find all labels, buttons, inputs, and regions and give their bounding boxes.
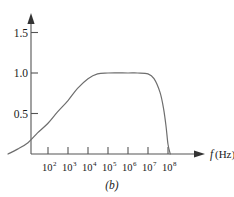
x-tick-exponent-5: 7	[153, 160, 157, 168]
x-tick-exponent-4: 6	[133, 160, 137, 168]
y-tick-marks	[31, 33, 38, 114]
x-tick-exponent-0: 2	[53, 160, 57, 168]
x-tick-exponent-6: 8	[173, 160, 177, 168]
x-tick-label-1e7: 10 7	[142, 160, 157, 173]
x-tick-label-1e4: 10 4	[82, 160, 97, 173]
x-tick-base-0: 10	[42, 162, 53, 173]
x-axis-title: f (Hz)	[210, 148, 234, 161]
x-tick-label-1e6: 10 6	[122, 160, 137, 173]
x-tick-label-1e8: 10 8	[162, 160, 177, 173]
x-axis-arrowhead	[194, 151, 205, 158]
x-tick-base-1: 10	[62, 162, 73, 173]
x-tick-exponent-3: 5	[113, 160, 117, 168]
x-tick-label-1e2: 10 2	[42, 160, 57, 173]
y-tick-label-0: 0.5	[14, 108, 29, 120]
bode-plot-chart: 0.5 1.0 1.5 10 2 10 3 10 4	[0, 0, 234, 197]
x-tick-label-1e3: 10 3	[62, 160, 77, 173]
x-tick-labels: 10 2 10 3 10 4 10 5 10 6 10 7	[42, 160, 177, 173]
figure-panel: 0.5 1.0 1.5 10 2 10 3 10 4	[0, 0, 234, 197]
x-tick-base-4: 10	[122, 162, 133, 173]
x-tick-base-3: 10	[102, 162, 113, 173]
x-tick-exponent-2: 4	[93, 160, 97, 168]
x-tick-base-2: 10	[82, 162, 93, 173]
figure-caption: (b)	[105, 179, 119, 192]
x-tick-exponent-1: 3	[73, 160, 77, 168]
x-axis-title-unit: (Hz)	[215, 148, 234, 161]
y-axis-arrowhead	[27, 13, 34, 24]
x-tick-marks	[48, 147, 168, 154]
x-tick-label-1e5: 10 5	[102, 160, 117, 173]
y-tick-label-1: 1.0	[14, 67, 29, 79]
x-tick-base-5: 10	[142, 162, 153, 173]
y-tick-label-2: 1.5	[14, 27, 29, 39]
x-tick-base-6: 10	[162, 162, 173, 173]
